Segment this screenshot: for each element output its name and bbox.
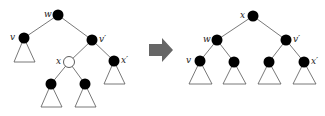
node-v-prime xyxy=(281,35,292,46)
label-w: w xyxy=(44,9,52,19)
node-x-prime xyxy=(299,57,310,68)
label-x: x xyxy=(56,56,61,66)
node-w xyxy=(212,35,223,46)
rotation-diagram: w v v′ x x′ x w v′ v x′ xyxy=(0,0,325,116)
label-v: v xyxy=(10,32,15,42)
left-tree-nodes xyxy=(19,10,120,90)
node-v xyxy=(195,56,206,67)
node-v-prime-left-child xyxy=(264,57,275,68)
node-w-right-child xyxy=(229,57,240,68)
node-x xyxy=(248,11,259,22)
label-w: w xyxy=(203,34,211,44)
label-v-prime: v′ xyxy=(99,34,106,44)
node-x-hollow xyxy=(64,57,75,68)
label-x-prime: x′ xyxy=(311,56,318,66)
node-right-child xyxy=(80,79,91,90)
node-x-prime xyxy=(109,56,120,67)
label-v: v xyxy=(186,55,191,65)
node-w xyxy=(53,10,64,21)
arrow-icon xyxy=(149,38,173,62)
label-v-prime: v′ xyxy=(293,34,300,44)
label-x: x xyxy=(240,10,245,20)
right-tree xyxy=(189,16,316,84)
node-v xyxy=(19,33,30,44)
label-x-prime: x′ xyxy=(121,55,128,65)
node-left-child xyxy=(46,79,57,90)
node-v-prime xyxy=(87,35,98,46)
